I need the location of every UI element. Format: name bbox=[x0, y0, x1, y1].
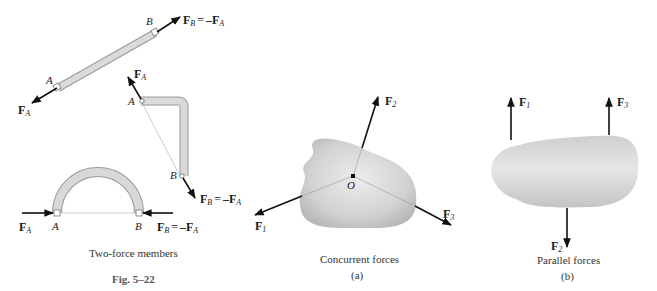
caption-parallel-forces: Parallel forces bbox=[537, 255, 600, 266]
arch-point-a: A bbox=[52, 221, 59, 232]
arch-point-b: B bbox=[135, 221, 142, 232]
caption-parallel-sub: (b) bbox=[561, 271, 574, 282]
straight-member bbox=[32, 17, 180, 103]
parallel-f1-label: F1 bbox=[519, 96, 530, 110]
bent-point-b: B bbox=[170, 170, 177, 181]
arch-force-b-label: FB=–FA bbox=[157, 221, 198, 235]
parallel-body bbox=[491, 98, 638, 247]
force-b-arrow bbox=[157, 17, 180, 32]
straight-point-a: A bbox=[46, 75, 53, 86]
caption-concurrent-sub: (a) bbox=[351, 270, 363, 281]
arch-force-a-label: FA bbox=[19, 221, 31, 235]
bent-point-a: A bbox=[128, 96, 135, 107]
bent-member bbox=[128, 77, 195, 198]
parallel-f3-label: F3 bbox=[617, 96, 628, 110]
caption-concurrent-forces: Concurrent forces bbox=[320, 254, 399, 265]
concurrent-body bbox=[255, 97, 451, 228]
figure-5-22: B A FA FB=–FA FA A B FB=–FA FA A B FB=–F… bbox=[0, 0, 657, 291]
force-f1-arrow bbox=[255, 196, 302, 215]
force-a-arrow bbox=[32, 88, 57, 103]
concurrent-origin-label: O bbox=[347, 180, 355, 191]
bent-force-a-label: FA bbox=[134, 68, 146, 82]
concurrent-f2-label: F2 bbox=[385, 95, 396, 109]
parallel-f2-label: F2 bbox=[551, 240, 562, 254]
straight-force-b-label: FB=–FA bbox=[183, 14, 224, 28]
line-of-action bbox=[141, 101, 180, 176]
force-f2-arrow bbox=[362, 97, 378, 148]
straight-point-b: B bbox=[146, 16, 153, 27]
straight-force-a-label: FA bbox=[18, 104, 30, 118]
arch-member bbox=[22, 172, 173, 216]
bent-force-b-label: FB=–FA bbox=[200, 193, 241, 207]
concurrent-f3-label: F3 bbox=[443, 208, 454, 222]
figure-title: Fig. 5–22 bbox=[112, 274, 155, 285]
concurrent-f1-label: F1 bbox=[255, 220, 266, 234]
force-b-arrow bbox=[183, 178, 195, 198]
caption-two-force-members: Two-force members bbox=[89, 248, 178, 259]
origin-point bbox=[351, 174, 355, 178]
